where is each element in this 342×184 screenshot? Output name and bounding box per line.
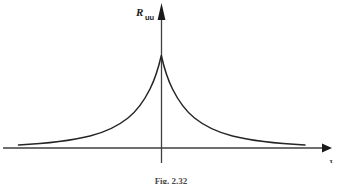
y-axis-label-subscript: uu: [145, 13, 155, 22]
figure-caption: Fig. 2.32: [0, 176, 342, 184]
y-axis-label-main: R: [135, 6, 143, 18]
plot-canvas: R uu τ: [0, 0, 342, 184]
y-axis-arrow-icon: [158, 3, 166, 20]
x-axis-arrow-icon: [322, 144, 332, 153]
figure-container: R uu τ Fig. 2.32: [0, 0, 342, 184]
x-axis-label-tau: τ: [329, 157, 333, 165]
